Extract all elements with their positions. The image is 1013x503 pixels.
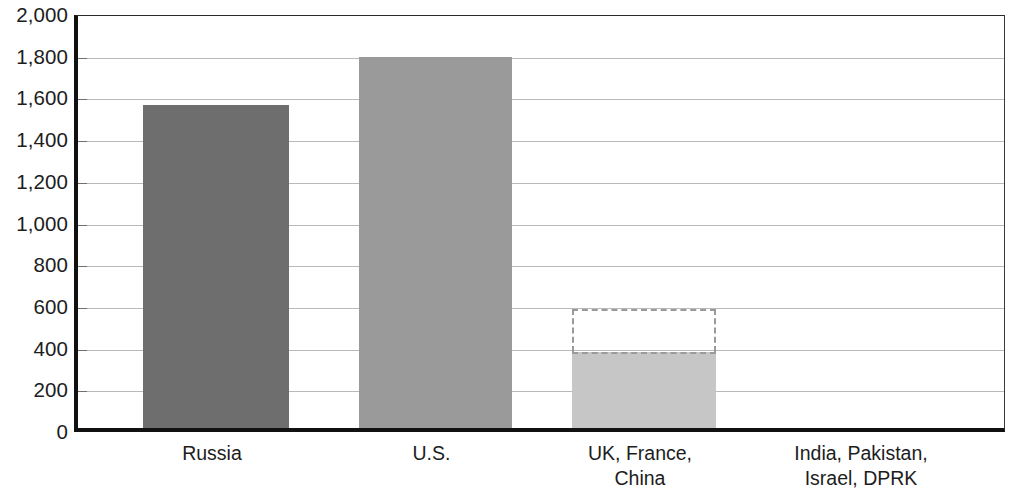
x-axis: RussiaU.S.UK, France,ChinaIndia, Pakista…: [74, 441, 1005, 503]
y-axis-tick-mark: [78, 266, 87, 267]
x-axis-label-line: China: [528, 466, 752, 491]
y-axis-tick-mark: [78, 225, 87, 226]
y-axis-tick-label: 400: [2, 337, 68, 361]
x-axis-tick-label: UK, France,China: [528, 441, 752, 491]
y-axis-tick-label: 1,400: [2, 128, 68, 152]
x-axis-label-line: U.S.: [413, 442, 451, 464]
y-axis-tick-mark: [78, 391, 87, 392]
x-axis-tick-label: U.S.: [315, 441, 548, 466]
bar-3: [572, 309, 716, 428]
y-axis-tick-label: 1,200: [2, 170, 68, 194]
x-axis-label-line: UK, France,: [588, 442, 692, 464]
bar-1: [143, 105, 289, 428]
gridline: [78, 99, 1004, 100]
y-axis-tick-label: 1,600: [2, 86, 68, 110]
y-axis-tick-label: 1,800: [2, 45, 68, 69]
bar-2: [359, 57, 512, 428]
bar-3-estimated-segment: [572, 309, 716, 352]
x-axis-tick-label: India, Pakistan,Israel, DPRK: [746, 441, 976, 491]
y-axis-tick-mark: [78, 58, 87, 59]
y-axis-tick-label: 800: [2, 253, 68, 277]
bar-1-deployed-segment: [143, 105, 289, 428]
y-axis-tick-label: 0: [2, 420, 68, 444]
bar-3-deployed-segment: [572, 352, 716, 428]
plot-area: [74, 15, 1005, 432]
y-axis-tick-mark: [78, 141, 87, 142]
y-axis-tick-label: 600: [2, 295, 68, 319]
y-axis-tick-label: 2,000: [2, 3, 68, 27]
x-axis-label-line: Israel, DPRK: [746, 466, 976, 491]
bar-chart: 2,0001,8001,6001,4001,2001,0008006004002…: [0, 0, 1013, 503]
y-axis-tick-mark: [78, 183, 87, 184]
bar-2-deployed-segment: [359, 57, 512, 428]
y-axis-tick-label: 200: [2, 378, 68, 402]
x-axis-tick-label: Russia: [99, 441, 325, 466]
y-axis-tick-mark: [78, 99, 87, 100]
x-axis-label-line: Russia: [182, 442, 242, 464]
y-axis-tick-mark: [78, 350, 87, 351]
gridline: [78, 58, 1004, 59]
y-axis-tick-label: 1,000: [2, 212, 68, 236]
y-axis-tick-mark: [78, 308, 87, 309]
x-axis-label-line: India, Pakistan,: [794, 442, 927, 464]
y-axis: 2,0001,8001,6001,4001,2001,0008006004002…: [0, 0, 68, 503]
